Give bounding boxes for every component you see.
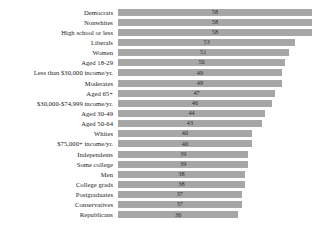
- bar-value-label: 37: [177, 201, 183, 207]
- bar-row: High school or less58: [0, 27, 312, 37]
- bar-value-label: 44: [188, 110, 194, 116]
- bar-row: Men38: [0, 169, 312, 179]
- bar-category-label: Aged 30-49: [0, 110, 118, 117]
- bar: 58: [118, 19, 312, 26]
- bar-category-label: Aged 18-29: [0, 59, 118, 66]
- bar: 39: [118, 161, 248, 168]
- bar-value-label: 58: [212, 9, 218, 15]
- bar-row: Republicans36: [0, 210, 312, 220]
- bar-row: $75,000+ income/yr.40: [0, 139, 312, 149]
- bar-track: 49: [118, 78, 312, 88]
- bar-track: 38: [118, 169, 312, 179]
- bar-value-label: 43: [187, 120, 193, 126]
- bar-track: 40: [118, 129, 312, 139]
- bar-category-label: High school or less: [0, 29, 118, 36]
- bar-row: Aged 30-4944: [0, 108, 312, 118]
- bar-value-label: 58: [212, 19, 218, 25]
- bar: 40: [118, 140, 252, 147]
- bar-chart: Democrats58Nonwhites58High school or les…: [0, 0, 312, 229]
- bar: 50: [118, 59, 285, 66]
- bar: 37: [118, 201, 242, 208]
- bar-value-label: 49: [197, 80, 203, 86]
- bar-category-label: Conservatives: [0, 201, 118, 208]
- bar-rows: Democrats58Nonwhites58High school or les…: [0, 7, 312, 220]
- bar-category-label: Democrats: [0, 9, 118, 16]
- bar: 46: [118, 100, 272, 107]
- bar-category-label: Postgraduates: [0, 191, 118, 198]
- bar-row: Whites40: [0, 129, 312, 139]
- bar-category-label: College grads: [0, 181, 118, 188]
- bar-value-label: 51: [200, 49, 206, 55]
- bar-track: 47: [118, 88, 312, 98]
- bar-value-label: 49: [197, 70, 203, 76]
- bar-row: Some college39: [0, 159, 312, 169]
- bar-value-label: 40: [182, 130, 188, 136]
- bar-track: 50: [118, 58, 312, 68]
- bar-category-label: Republicans: [0, 211, 118, 218]
- bar-track: 39: [118, 149, 312, 159]
- bar-category-label: Less than $30,000 income/yr.: [0, 69, 118, 76]
- bar-row: Conservatives37: [0, 200, 312, 210]
- bar: 58: [118, 29, 312, 36]
- bar-row: Aged 65+47: [0, 88, 312, 98]
- bar-track: 44: [118, 108, 312, 118]
- bar-value-label: 36: [175, 212, 181, 218]
- bar-category-label: Men: [0, 171, 118, 178]
- bar-track: 36: [118, 210, 312, 220]
- bar: 38: [118, 171, 245, 178]
- bar-category-label: Whites: [0, 130, 118, 137]
- bar-category-label: Nonwhites: [0, 19, 118, 26]
- bar: 49: [118, 80, 282, 87]
- bar-row: Democrats58: [0, 7, 312, 17]
- bar-value-label: 38: [178, 171, 184, 177]
- bar-row: Nonwhites58: [0, 17, 312, 27]
- bar-category-label: $75,000+ income/yr.: [0, 140, 118, 147]
- bar-track: 40: [118, 139, 312, 149]
- bar-row: Less than $30,000 income/yr.49: [0, 68, 312, 78]
- bar-row: Women51: [0, 48, 312, 58]
- bar-row: Aged 50-6443: [0, 119, 312, 129]
- bar-row: Postgraduates37: [0, 190, 312, 200]
- bar: 49: [118, 69, 282, 76]
- bar-row: Aged 18-2950: [0, 58, 312, 68]
- bar-row: College grads38: [0, 179, 312, 189]
- bar: 43: [118, 120, 262, 127]
- bar-row: Independents39: [0, 149, 312, 159]
- bar-category-label: Some college: [0, 161, 118, 168]
- bar-track: 49: [118, 68, 312, 78]
- bar-value-label: 47: [193, 90, 199, 96]
- bar-value-label: 39: [180, 151, 186, 157]
- bar-track: 51: [118, 48, 312, 58]
- bar-value-label: 38: [178, 181, 184, 187]
- bar-track: 38: [118, 179, 312, 189]
- bar-category-label: Independents: [0, 151, 118, 158]
- bar-track: 46: [118, 98, 312, 108]
- bar-track: 53: [118, 37, 312, 47]
- bar: 37: [118, 191, 242, 198]
- bar: 44: [118, 110, 265, 117]
- bar-category-label: Liberals: [0, 39, 118, 46]
- bar-value-label: 40: [182, 141, 188, 147]
- bar-category-label: $30,000-$74,999 income/yr.: [0, 100, 118, 107]
- bar: 51: [118, 49, 289, 56]
- bar-track: 39: [118, 159, 312, 169]
- bar-track: 37: [118, 190, 312, 200]
- bar-category-label: Women: [0, 49, 118, 56]
- bar-value-label: 58: [212, 29, 218, 35]
- bar-row: $30,000-$74,999 income/yr.46: [0, 98, 312, 108]
- bar-category-label: Moderates: [0, 80, 118, 87]
- bar-category-label: Aged 65+: [0, 90, 118, 97]
- bar-value-label: 37: [177, 191, 183, 197]
- bar-value-label: 53: [203, 39, 209, 45]
- bar-value-label: 46: [192, 100, 198, 106]
- bar-track: 58: [118, 27, 312, 37]
- bar: 36: [118, 211, 238, 218]
- bar: 53: [118, 39, 295, 46]
- bar: 58: [118, 9, 312, 16]
- bar-track: 43: [118, 119, 312, 129]
- bar-value-label: 39: [180, 161, 186, 167]
- bar-row: Moderates49: [0, 78, 312, 88]
- bar: 47: [118, 90, 275, 97]
- bar-track: 58: [118, 7, 312, 17]
- bar: 39: [118, 151, 248, 158]
